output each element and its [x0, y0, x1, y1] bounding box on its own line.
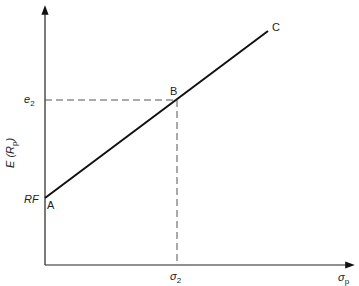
point-a-label: A: [47, 200, 54, 211]
point-b-label: B: [170, 86, 177, 97]
capital-market-line: [45, 31, 268, 198]
e2-tick-label: e2: [24, 94, 35, 108]
rf-tick-label: RF: [24, 194, 39, 205]
point-c-label: C: [272, 22, 280, 33]
y-axis-label: E (Rp): [4, 138, 19, 168]
x-axis-label: σp: [338, 272, 349, 286]
sigma2-tick-label: σ2: [170, 271, 181, 285]
capital-market-line-diagram: [0, 0, 359, 286]
